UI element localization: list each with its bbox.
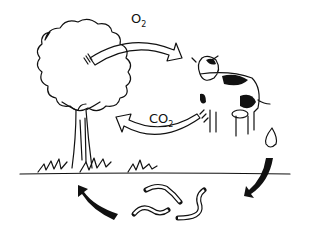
cow-spot: [200, 94, 206, 104]
grass: [38, 158, 157, 172]
worms-to-tree-arrow: [78, 185, 118, 220]
co2-subscript: 2: [168, 120, 173, 129]
dung-drop: [266, 128, 277, 147]
co2-text: CO: [149, 111, 168, 126]
tree-canopy: [37, 19, 130, 110]
cow-udder: [232, 110, 248, 118]
dung-to-worms-arrow: [244, 158, 273, 198]
o2-subscript: 2: [141, 20, 146, 29]
ground-line: [20, 173, 290, 174]
o2-label: O2: [131, 11, 146, 29]
co2-label: CO2: [149, 111, 173, 129]
o2-text: O: [131, 11, 141, 26]
cow-spot: [222, 75, 248, 86]
o2-arrow: [84, 43, 182, 65]
cow-spot: [240, 95, 256, 108]
